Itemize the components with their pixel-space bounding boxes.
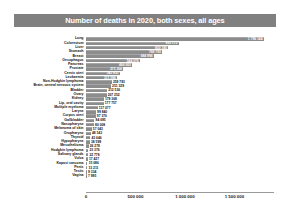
- bar-category-label: Colorectum: [0, 42, 86, 46]
- chart-title: Number of deaths in 2020, both sexes, al…: [65, 17, 224, 24]
- x-axis-tick-labels: 0500 0001 000 0001 500 000: [0, 195, 290, 207]
- x-axis-tick: 0: [85, 195, 87, 199]
- x-axis-tick: 1 500 000: [225, 195, 245, 199]
- bar-category-label: Salivary glands: [0, 153, 86, 157]
- x-axis-tick: 500 000: [128, 195, 144, 199]
- bar-row: Vagina7 995: [0, 174, 290, 178]
- x-axis-line: [86, 192, 274, 193]
- bar-category-label: Kaposi sarcoma: [0, 162, 86, 166]
- bar-track: 7 995: [86, 174, 290, 178]
- bar-category-label: Vagina: [0, 174, 86, 178]
- bar-value-label: 7 995: [87, 174, 96, 178]
- chart-container: Number of deaths in 2020, both sexes, al…: [0, 0, 290, 218]
- chart-title-banner: Number of deaths in 2020, both sexes, al…: [14, 14, 276, 27]
- x-axis-tick: 1 000 000: [175, 195, 195, 199]
- chart-plot-area: Lung1 796 144Colorectum935 173Liver830 1…: [0, 37, 290, 192]
